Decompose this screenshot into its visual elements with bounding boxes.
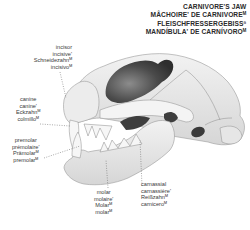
label-text: incisive'	[34, 51, 72, 58]
label-text: carnassière'	[141, 188, 171, 195]
label-text: carniceroᴹ	[141, 201, 171, 208]
label-text: Molarᴹ	[94, 202, 113, 209]
label-text: Eckzahnᴹ	[16, 109, 40, 116]
label-text: canine'	[16, 103, 40, 110]
label-text: premolarᴹ	[12, 157, 40, 164]
label-text: incisor	[34, 44, 72, 51]
label-canine: canine canine' Eckzahnᴹ colmilloᴹ	[16, 96, 40, 122]
label-text: molarᴹ	[94, 209, 113, 216]
label-carnassial: carnassial carnassière' Reißzahnᴹ carnic…	[141, 181, 171, 207]
label-text: carnassial	[141, 181, 171, 188]
label-text: incisivoᴹ	[34, 64, 72, 71]
label-text: colmilloᴹ	[16, 116, 40, 123]
label-text: Schneidezahnᴹ	[34, 57, 72, 64]
label-incisor: incisor incisive' Schneidezahnᴹ incisivo…	[34, 44, 72, 70]
label-text: Reißzahnᴹ	[141, 194, 171, 201]
label-text: molaire'	[94, 196, 113, 203]
title-spanish: MANDÍBULA' DE CARNÍVOROᴹ	[145, 28, 246, 36]
label-premolar: premolar prémolaire' Prämolarᴹ premolarᴹ	[12, 137, 40, 163]
snout	[63, 81, 99, 124]
label-text: premolar	[12, 137, 40, 144]
label-molar: molar molaire' Molarᴹ molarᴹ	[94, 189, 113, 215]
label-text: canine	[16, 96, 40, 103]
label-text: molar	[94, 189, 113, 196]
label-text: Prämolarᴹ	[12, 150, 40, 157]
title-block: CARNIVORE'S JAW MÂCHOIRE' DE CARNIVOREᴹ …	[137, 3, 246, 37]
label-text: prémolaire'	[12, 144, 40, 151]
